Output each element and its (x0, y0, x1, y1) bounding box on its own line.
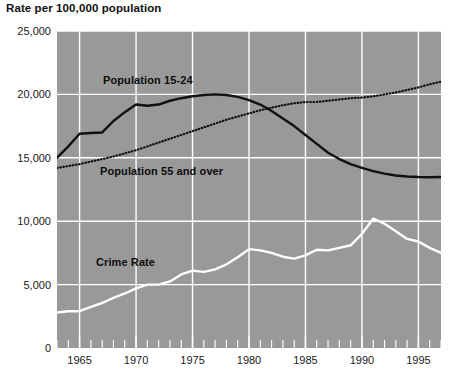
x-tick-label: 1985 (293, 354, 317, 366)
chart-figure: Rate per 100,000 population 25,00020,000… (0, 0, 450, 380)
x-tick-label: 1995 (406, 354, 430, 366)
x-axis-tick-labels: 1965197019751980198519901995 (0, 0, 450, 380)
x-tick-label: 1980 (237, 354, 261, 366)
x-tick-label: 1970 (124, 354, 148, 366)
series-label-crime-rate: Crime Rate (96, 256, 155, 268)
series-label-population-15-24: Population 15-24 (103, 74, 193, 86)
series-label-population-55-and-over: Population 55 and over (100, 165, 223, 177)
x-tick-label: 1990 (350, 354, 374, 366)
x-tick-label: 1965 (67, 354, 91, 366)
x-tick-label: 1975 (180, 354, 204, 366)
